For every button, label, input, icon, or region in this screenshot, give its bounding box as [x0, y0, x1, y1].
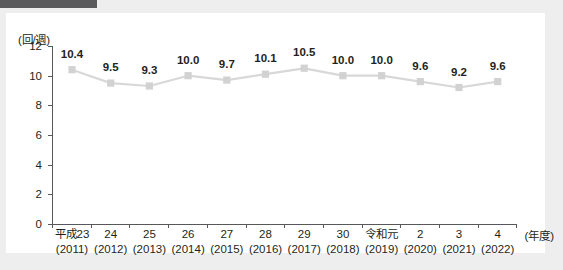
- data-point-marker: [146, 82, 153, 89]
- data-point-value-label: 9.6: [398, 60, 442, 72]
- chart-card: (回/週) 024681012 10.49.59.310.09.710.110.…: [6, 13, 545, 253]
- data-point-marker: [223, 77, 230, 84]
- data-point-marker: [262, 71, 269, 78]
- data-point-marker: [185, 72, 192, 79]
- data-point-marker: [417, 78, 424, 85]
- data-point-value-label: 10.4: [50, 48, 94, 60]
- data-point-value-label: 9.7: [205, 58, 249, 70]
- data-point-value-label: 9.3: [127, 64, 171, 76]
- screenshot-root: (回/週) 024681012 10.49.59.310.09.710.110.…: [0, 0, 563, 270]
- data-point-value-label: 10.5: [282, 46, 326, 58]
- x-category-western-year: (2022): [463, 242, 533, 257]
- data-point-value-label: 10.0: [166, 54, 210, 66]
- x-category-era: 4: [463, 227, 533, 242]
- data-point-marker: [107, 80, 114, 87]
- x-axis-caption: (年度): [524, 227, 554, 243]
- data-point-value-label: 10.0: [321, 54, 365, 66]
- data-point-value-label: 10.0: [360, 54, 404, 66]
- data-point-marker: [455, 84, 462, 91]
- line-chart: (回/週) 024681012 10.49.59.310.09.710.110.…: [6, 13, 545, 253]
- data-point-value-label: 9.6: [476, 60, 520, 72]
- data-point-value-label: 9.5: [89, 61, 133, 73]
- data-point-value-label: 10.1: [244, 52, 288, 64]
- data-point-marker: [494, 78, 501, 85]
- x-category-label: 4(2022): [463, 227, 533, 257]
- data-point-marker: [339, 72, 346, 79]
- data-point-value-label: 9.2: [437, 66, 481, 78]
- data-point-marker: [68, 66, 75, 73]
- data-point-marker: [378, 72, 385, 79]
- header-accent-bar: [0, 0, 97, 8]
- data-point-marker: [301, 65, 308, 72]
